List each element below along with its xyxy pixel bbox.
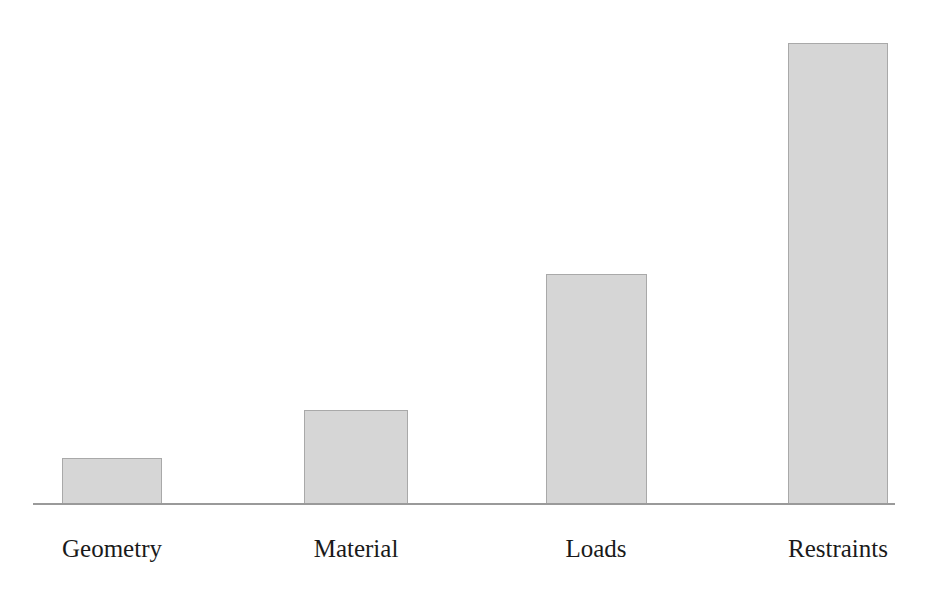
bar-restraints [788,43,888,504]
plot-area: Geometry Material Loads Restraints [0,0,939,609]
bar-geometry [62,458,162,504]
category-label-geometry: Geometry [12,534,212,564]
bar-chart: Geometry Material Loads Restraints [0,0,939,609]
category-label-loads: Loads [496,534,696,564]
bar-material [304,410,408,504]
category-axis-line [33,503,895,505]
category-label-restraints: Restraints [738,534,938,564]
bar-loads [546,274,647,504]
category-label-material: Material [256,534,456,564]
